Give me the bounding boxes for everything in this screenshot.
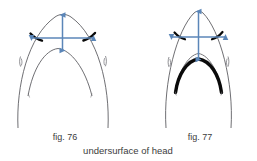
fig-76-label: fig. 76: [53, 132, 78, 142]
undersurface-of-head-diagram: fig. 76: [0, 0, 257, 161]
plate-caption: undersurface of head: [83, 145, 173, 156]
fig-77-label: fig. 77: [188, 132, 213, 142]
figure-plate: fig. 76: [0, 0, 257, 161]
